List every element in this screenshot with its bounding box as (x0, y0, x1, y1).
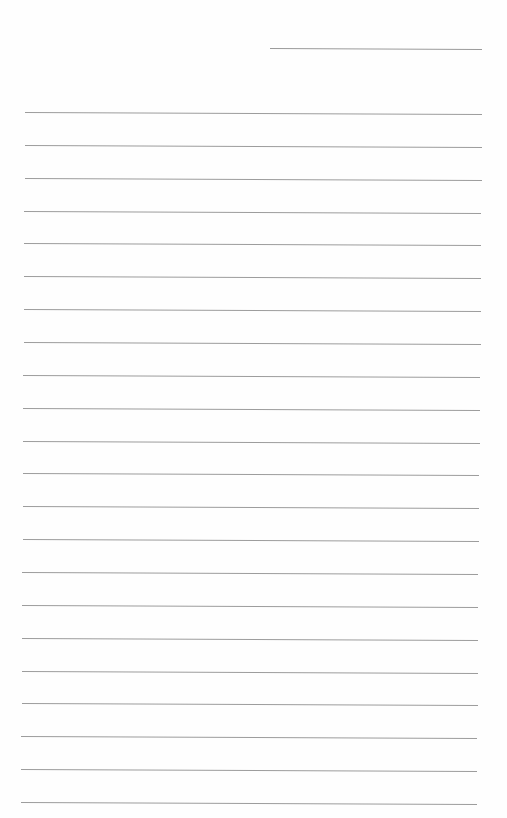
ruled-line (22, 638, 478, 641)
ruled-line (21, 802, 477, 805)
ruled-line (24, 243, 481, 246)
ruled-line (23, 506, 479, 509)
ruled-line (23, 375, 480, 378)
ruled-line (23, 539, 479, 542)
ruled-line (22, 703, 478, 706)
ruled-line (25, 112, 482, 115)
name-date-header-line (270, 48, 482, 50)
ruled-line (24, 309, 481, 312)
ruled-line (22, 671, 478, 674)
lined-paper-page (0, 0, 507, 818)
ruled-line (23, 441, 480, 444)
ruled-line (23, 473, 479, 476)
ruled-line (22, 605, 478, 608)
ruled-line (25, 178, 482, 181)
ruled-line (23, 408, 480, 411)
ruled-line (22, 572, 478, 575)
ruled-line (24, 211, 481, 214)
ruled-line (24, 276, 481, 279)
ruled-line (21, 769, 477, 772)
ruled-line (24, 342, 481, 345)
ruled-line (25, 145, 482, 148)
ruled-line (21, 736, 477, 739)
